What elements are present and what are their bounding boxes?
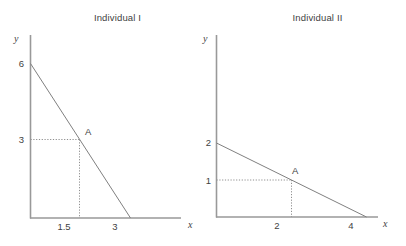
panel-2-y-tick-1: 1 — [197, 175, 211, 186]
panel-2-y-tick-2: 2 — [197, 137, 211, 148]
panel-2-plot — [203, 0, 406, 246]
panel-2-x-axis-name: x — [383, 218, 387, 229]
panel-individual-1: Individual I y x 6 3 1.5 3 A — [0, 0, 203, 246]
panel-2-y-axis-name: y — [203, 33, 207, 44]
two-panel-budget-line-figure: Individual I y x 6 3 1.5 3 A Individual … — [0, 0, 406, 246]
panel-1-y-axis-name: y — [14, 33, 18, 44]
panel-1-budget-line — [31, 64, 131, 219]
panel-2-x-tick-4: 4 — [336, 220, 366, 231]
panel-2-x-tick-2: 2 — [262, 220, 292, 231]
panel-1-point-label-a: A — [85, 126, 91, 137]
panel-individual-2: Individual II y x 2 1 2 4 A — [203, 0, 406, 246]
panel-1-x-tick-3: 3 — [100, 221, 130, 232]
panel-2-point-label-a: A — [292, 165, 298, 176]
panel-1-plot — [0, 0, 203, 246]
panel-1-y-tick-6: 6 — [10, 58, 24, 69]
panel-1-x-axis-name: x — [188, 219, 192, 230]
panel-1-x-tick-1-5: 1.5 — [49, 221, 79, 232]
panel-1-y-tick-3: 3 — [10, 134, 24, 145]
